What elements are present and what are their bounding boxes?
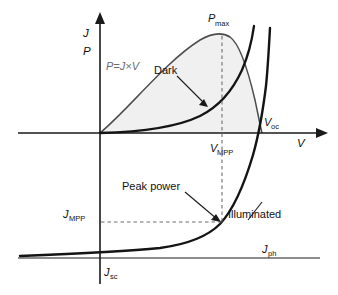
power-product-label: P=J×V xyxy=(106,60,141,72)
dark-curve-label: Dark xyxy=(154,64,178,76)
y-axis-label-current: J xyxy=(82,27,89,39)
peak-power-leader-line xyxy=(185,192,217,219)
pmax-label: P max xyxy=(208,12,229,28)
figure-container: J P V P=J×V P max Dark Illuminated Peak … xyxy=(0,0,338,295)
jmpp-label-base: J xyxy=(62,208,69,220)
jph-label: J ph xyxy=(261,243,276,258)
jph-label-base: J xyxy=(261,243,268,255)
x-axis-label-voltage: V xyxy=(297,137,306,149)
pmax-label-sub: max xyxy=(215,19,229,28)
vmpp-label: V MPP xyxy=(210,142,233,157)
voltage-axis-arrow xyxy=(316,128,328,138)
jmpp-label: J MPP xyxy=(62,208,85,223)
jsc-label-base: J xyxy=(103,266,110,278)
jsc-label: J sc xyxy=(103,266,118,281)
vmpp-label-sub: MPP xyxy=(217,148,233,157)
peak-power-label: Peak power xyxy=(122,180,180,192)
voc-label-sub: oc xyxy=(271,122,279,131)
jph-label-sub: ph xyxy=(268,249,276,258)
illuminated-curve-label: Illuminated xyxy=(228,208,281,220)
jsc-label-sub: sc xyxy=(110,272,118,281)
current-power-axis-arrow xyxy=(95,12,105,24)
jmpp-label-sub: MPP xyxy=(69,214,85,223)
y-axis-label-power: P xyxy=(83,45,91,57)
voc-label: V oc xyxy=(264,116,279,131)
power-area-fill xyxy=(100,34,262,133)
jv-characteristic-diagram: J P V P=J×V P max Dark Illuminated Peak … xyxy=(0,0,338,295)
